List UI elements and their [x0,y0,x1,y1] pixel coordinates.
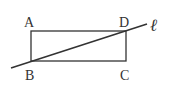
vertex-label-d: D [119,15,129,30]
vertex-label-a: A [24,15,35,30]
vertex-label-b: B [25,68,34,83]
vertex-label-c: C [120,68,129,83]
geometry-diagram: A B C D ℓ [0,0,172,88]
line-label-l: ℓ [150,16,157,35]
